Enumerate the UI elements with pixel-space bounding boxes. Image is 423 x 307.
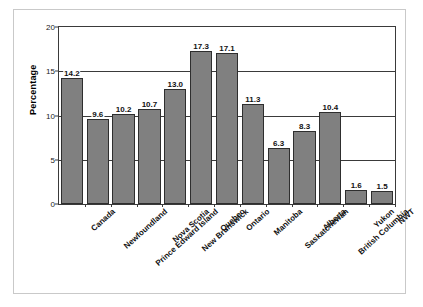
bar-slot: 17.3	[188, 27, 214, 204]
bar[interactable]: 10.4	[319, 112, 341, 204]
y-axis-title: Percentage	[28, 64, 38, 115]
bar-slot: 1.6	[343, 27, 369, 204]
bar[interactable]: 9.6	[87, 119, 109, 204]
x-axis-tick-mark	[369, 204, 370, 207]
y-axis-tick-label: 20	[46, 23, 55, 32]
bar-slot: 10.2	[111, 27, 137, 204]
bar-value-label: 10.2	[115, 105, 133, 114]
bar-slot: 1.5	[369, 27, 395, 204]
bar-slot: 10.7	[137, 27, 163, 204]
bar[interactable]: 1.5	[371, 191, 393, 204]
y-axis-tick-label: 10	[46, 111, 55, 120]
bar-value-label: 6.3	[272, 139, 285, 148]
bar[interactable]: 6.3	[268, 148, 290, 204]
x-axis-category-label: Canada	[89, 207, 117, 233]
chart-figure: Percentage 05101520 14.29.610.210.713.01…	[13, 9, 406, 294]
x-axis-tick-mark	[317, 204, 318, 207]
bar-slot: 9.6	[85, 27, 111, 204]
plot-area: 05101520 14.29.610.210.713.017.317.111.3…	[58, 26, 396, 205]
bar-value-label: 10.7	[141, 100, 159, 109]
bar-value-label: 14.2	[63, 69, 81, 78]
bar[interactable]: 8.3	[293, 131, 315, 204]
bar[interactable]: 11.3	[242, 104, 264, 204]
bar-value-label: 10.4	[322, 103, 340, 112]
bar-value-label: 9.6	[91, 110, 104, 119]
bar[interactable]: 10.7	[138, 109, 160, 204]
bar-slot: 14.2	[59, 27, 85, 204]
bar[interactable]: 17.3	[190, 51, 212, 204]
bar-value-label: 17.3	[192, 42, 210, 51]
bar[interactable]: 10.2	[112, 114, 134, 204]
bar-value-label: 13.0	[166, 80, 184, 89]
x-axis-category-label: Manitoba	[272, 207, 304, 237]
bar[interactable]: 17.1	[216, 53, 238, 204]
bar[interactable]: 13.0	[164, 89, 186, 204]
bar-slot: 6.3	[266, 27, 292, 204]
x-axis-category-label: Newfoundland	[122, 207, 169, 251]
x-axis-tick-mark	[292, 204, 293, 207]
x-axis-tick-mark	[395, 204, 396, 207]
x-axis-tick-mark	[188, 204, 189, 207]
bar-value-label: 8.3	[298, 122, 311, 131]
x-axis-category-label: Alberta	[321, 207, 348, 232]
bar[interactable]: 14.2	[61, 78, 83, 204]
y-axis-tick-label: 15	[46, 67, 55, 76]
bar-value-label: 1.5	[375, 182, 388, 191]
x-axis-tick-mark	[137, 204, 138, 207]
bar-slot: 8.3	[292, 27, 318, 204]
bar-value-label: 1.6	[350, 181, 363, 190]
bar[interactable]: 1.6	[345, 190, 367, 204]
bar-slot: 10.4	[317, 27, 343, 204]
bar-value-label: 17.1	[218, 44, 236, 53]
bar-slot: 17.1	[214, 27, 240, 204]
bar-slot: 13.0	[162, 27, 188, 204]
bar-value-label: 11.3	[244, 95, 261, 104]
bar-slot: 11.3	[240, 27, 266, 204]
x-axis-tick-mark	[85, 204, 86, 207]
